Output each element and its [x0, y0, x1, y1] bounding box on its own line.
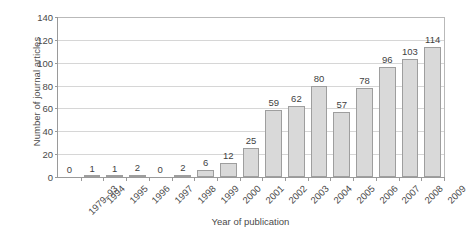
bar-value-label: 80 [308, 73, 331, 84]
bar[interactable] [311, 86, 328, 177]
bar-slot: 103 [399, 17, 422, 177]
bar[interactable] [379, 67, 396, 177]
x-tick-label: 1995 [127, 183, 150, 206]
x-tick-mark [172, 177, 173, 181]
bar-slot: 114 [421, 17, 444, 177]
bar-value-label: 103 [399, 46, 422, 57]
x-tick-label: 1997 [172, 183, 195, 206]
y-tick-label: 40 [42, 126, 53, 137]
bar-value-label: 114 [421, 34, 444, 45]
bar-value-label: 25 [240, 135, 263, 146]
y-tick-mark [55, 177, 58, 178]
bar-value-label: 0 [58, 164, 81, 175]
x-tick-mark [308, 177, 309, 181]
bar-slot: 62 [285, 17, 308, 177]
x-tick-label: 2005 [354, 183, 377, 206]
y-axis-title: Number of journal articles [31, 7, 42, 177]
x-tick-label: 1996 [150, 183, 173, 206]
x-tick-label: 1999 [218, 183, 241, 206]
x-tick-mark [285, 177, 286, 181]
bar-slot: 2 [172, 17, 195, 177]
bar-slot: 59 [262, 17, 285, 177]
bar[interactable] [129, 175, 146, 177]
x-tick-mark [330, 177, 331, 181]
x-tick-mark [240, 177, 241, 181]
bar-slot: 0 [149, 17, 172, 177]
bar-value-label: 0 [149, 164, 172, 175]
x-tick-label: 2000 [240, 183, 263, 206]
bar-value-label: 1 [81, 163, 104, 174]
x-tick-label: 2009 [445, 183, 468, 206]
bar-slot: 96 [376, 17, 399, 177]
x-tick-label: 2006 [377, 183, 400, 206]
bar-value-label: 1 [103, 163, 126, 174]
bar[interactable] [174, 175, 191, 177]
x-tick-label: 2008 [422, 183, 445, 206]
bar-value-label: 59 [262, 97, 285, 108]
bar[interactable] [220, 163, 237, 177]
y-tick-label: 120 [37, 34, 53, 45]
x-tick-mark [262, 177, 263, 181]
bar[interactable] [402, 59, 419, 177]
bar-slot: 12 [217, 17, 240, 177]
x-tick-mark [103, 177, 104, 181]
bar[interactable] [288, 106, 305, 177]
bar[interactable] [424, 47, 441, 177]
x-tick-mark [399, 177, 400, 181]
bar[interactable] [265, 110, 282, 177]
x-tick-mark [194, 177, 195, 181]
bar-value-label: 12 [217, 150, 240, 161]
bar[interactable] [197, 170, 214, 177]
bar-slot: 25 [240, 17, 263, 177]
bar-slot: 78 [353, 17, 376, 177]
x-tick-mark [376, 177, 377, 181]
x-tick-label: 2003 [309, 183, 332, 206]
x-tick-mark [217, 177, 218, 181]
bar-value-label: 2 [172, 162, 195, 173]
bar-slot: 1 [103, 17, 126, 177]
x-tick-mark [421, 177, 422, 181]
bar-slot: 80 [308, 17, 331, 177]
x-tick-mark [444, 177, 445, 181]
bar-value-label: 6 [194, 157, 217, 168]
y-tick-label: 0 [48, 172, 53, 183]
bar-value-label: 62 [285, 93, 308, 104]
bar-slot: 2 [126, 17, 149, 177]
bar-value-label: 96 [376, 54, 399, 65]
bar[interactable] [106, 175, 123, 177]
plot-area: 020406080100120140 011202612255962805778… [57, 17, 445, 178]
bar[interactable] [333, 112, 350, 177]
x-tick-label: 1998 [195, 183, 218, 206]
x-tick-label: 2002 [286, 183, 309, 206]
bars-layer: 01120261225596280577896103114 [58, 17, 444, 177]
x-tick-mark [353, 177, 354, 181]
x-axis-title: Year of publication [57, 216, 444, 227]
bar-slot: 1 [81, 17, 104, 177]
bar[interactable] [84, 175, 101, 177]
bar[interactable] [243, 148, 260, 177]
bar-slot: 57 [330, 17, 353, 177]
bar[interactable] [356, 88, 373, 177]
x-tick-label: 2001 [263, 183, 286, 206]
bar-slot: 0 [58, 17, 81, 177]
y-tick-label: 20 [42, 149, 53, 160]
bar-slot: 6 [194, 17, 217, 177]
x-tick-mark [81, 177, 82, 181]
bar-value-label: 57 [330, 99, 353, 110]
y-tick-label: 100 [37, 57, 53, 68]
bar-value-label: 2 [126, 162, 149, 173]
x-tick-label: 2004 [331, 183, 354, 206]
y-tick-label: 80 [42, 80, 53, 91]
y-tick-label: 60 [42, 103, 53, 114]
y-tick-label: 140 [37, 12, 53, 23]
x-tick-label: 2007 [399, 183, 422, 206]
x-tick-mark [149, 177, 150, 181]
x-tick-mark [126, 177, 127, 181]
bar-value-label: 78 [353, 75, 376, 86]
